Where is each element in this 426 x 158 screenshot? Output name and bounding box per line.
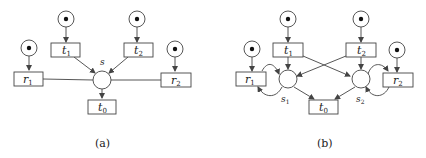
place-s2 xyxy=(352,70,370,88)
token-icon xyxy=(250,47,254,51)
token-icon xyxy=(173,47,177,51)
token-icon xyxy=(286,17,290,21)
token-icon xyxy=(135,17,139,21)
token-icon xyxy=(395,48,399,52)
place-t1-input xyxy=(280,11,296,27)
petri-net-figure: t1 t2 r1 r2 t0 s (a) t1 t2 r1 r2 t0 s1 s… xyxy=(0,0,426,158)
panel-b xyxy=(236,11,413,114)
token-icon xyxy=(359,17,363,21)
caption-b: (b) xyxy=(317,137,333,150)
label-s2: s2 xyxy=(356,94,365,105)
label-s: s xyxy=(100,57,105,67)
token-icon xyxy=(64,17,68,21)
place-s1 xyxy=(279,70,297,88)
place-r2-input xyxy=(167,41,183,57)
place-t1-input xyxy=(58,11,74,27)
place-r1-input xyxy=(244,41,260,57)
token-icon xyxy=(27,46,31,50)
place-r2-input xyxy=(389,42,405,58)
place-t2-input xyxy=(353,11,369,27)
caption-a: (a) xyxy=(95,137,110,150)
label-s1: s1 xyxy=(281,94,289,105)
place-t2-input xyxy=(129,11,145,27)
place-r1-input xyxy=(21,40,37,56)
place-s xyxy=(93,71,111,89)
